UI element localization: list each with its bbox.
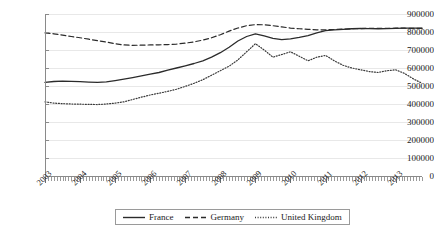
y-axis-tick-mark bbox=[45, 68, 49, 69]
y-axis-tick-label: 200000 bbox=[392, 136, 434, 145]
legend-label-united-kingdom: United Kingdom bbox=[281, 212, 342, 222]
y-axis-tick-label: 800000 bbox=[392, 28, 434, 37]
x-axis-tick-mark bbox=[162, 177, 163, 181]
legend-label-germany: Germany bbox=[211, 212, 245, 222]
x-axis-tick-mark bbox=[337, 177, 338, 181]
x-axis-tick-mark bbox=[235, 177, 236, 181]
x-axis-tick-mark bbox=[200, 177, 201, 181]
x-axis-tick-mark bbox=[232, 177, 233, 181]
x-axis-tick-mark bbox=[296, 177, 297, 181]
x-axis-tick-mark bbox=[197, 177, 198, 181]
x-axis-tick-mark bbox=[54, 177, 55, 181]
x-axis-tick-mark bbox=[92, 177, 93, 181]
x-axis-tick-mark bbox=[261, 177, 262, 181]
plot-area bbox=[45, 14, 422, 176]
x-axis-tick-mark bbox=[308, 177, 309, 181]
x-axis-tick-mark bbox=[302, 177, 303, 181]
x-axis-tick-mark bbox=[194, 177, 195, 181]
y-axis-tick-label: 600000 bbox=[392, 64, 434, 73]
x-axis-tick-mark bbox=[136, 177, 137, 181]
legend-item-france[interactable]: France bbox=[123, 212, 174, 222]
series-line-france bbox=[45, 28, 422, 82]
x-axis-tick-mark bbox=[267, 177, 268, 181]
y-axis-tick-label: 100000 bbox=[392, 154, 434, 163]
x-axis-tick-mark bbox=[413, 177, 414, 181]
x-axis-tick-mark bbox=[375, 177, 376, 181]
x-axis-tick-mark bbox=[241, 177, 242, 181]
x-axis-tick-mark bbox=[378, 177, 379, 181]
x-axis-tick-mark bbox=[419, 177, 420, 181]
x-axis-tick-mark bbox=[226, 177, 227, 181]
x-axis-tick-mark bbox=[270, 177, 271, 181]
y-axis-tick-label: 900000 bbox=[392, 10, 434, 19]
x-axis-tick-mark bbox=[311, 177, 312, 181]
y-axis-tick-label: 400000 bbox=[392, 100, 434, 109]
x-axis-tick-mark bbox=[407, 177, 408, 181]
x-axis-tick-mark bbox=[369, 177, 370, 181]
y-axis-tick-mark bbox=[45, 14, 49, 15]
x-axis-tick-mark bbox=[101, 177, 102, 181]
legend-swatch-dashed-icon bbox=[185, 214, 207, 221]
x-axis-tick-mark bbox=[229, 177, 230, 181]
x-axis-tick-mark bbox=[98, 177, 99, 181]
x-axis-tick-mark bbox=[343, 177, 344, 181]
x-axis-tick-mark bbox=[127, 177, 128, 181]
x-axis-tick-mark bbox=[60, 177, 61, 181]
x-axis-tick-mark bbox=[305, 177, 306, 181]
x-axis-tick-mark bbox=[156, 177, 157, 181]
x-axis-tick-mark bbox=[168, 177, 169, 181]
series-line-united-kingdom bbox=[45, 44, 422, 105]
x-axis-tick-mark bbox=[264, 177, 265, 181]
x-axis-tick-mark bbox=[124, 177, 125, 181]
y-axis-tick-mark bbox=[45, 86, 49, 87]
x-axis-tick-mark bbox=[206, 177, 207, 181]
y-axis-tick-mark bbox=[45, 158, 49, 159]
x-axis-tick-mark bbox=[340, 177, 341, 181]
x-axis-tick-mark bbox=[404, 177, 405, 181]
x-axis-tick-mark bbox=[57, 177, 58, 181]
x-axis-tick-mark bbox=[238, 177, 239, 181]
x-axis-tick-mark bbox=[372, 177, 373, 181]
x-axis-tick-mark bbox=[422, 177, 423, 181]
x-axis-tick-mark bbox=[89, 177, 90, 181]
legend-swatch-solid-icon bbox=[123, 214, 145, 221]
x-axis-tick-mark bbox=[165, 177, 166, 181]
x-axis-tick-mark bbox=[346, 177, 347, 181]
x-axis-tick-mark bbox=[171, 177, 172, 181]
y-axis-tick-mark bbox=[45, 50, 49, 51]
x-axis-tick-mark bbox=[63, 177, 64, 181]
series-line-germany bbox=[45, 25, 422, 46]
y-axis-tick-label: 500000 bbox=[392, 82, 434, 91]
y-axis-tick-mark bbox=[45, 122, 49, 123]
y-axis-tick-mark bbox=[45, 32, 49, 33]
x-axis-tick-mark bbox=[95, 177, 96, 181]
y-axis-tick-mark bbox=[45, 140, 49, 141]
legend-swatch-dotted-icon bbox=[255, 214, 277, 221]
line-chart: 0100000200000300000400000500000600000700… bbox=[0, 0, 434, 240]
x-axis-tick-mark bbox=[130, 177, 131, 181]
x-axis-tick-mark bbox=[273, 177, 274, 181]
x-axis-tick-mark bbox=[159, 177, 160, 181]
y-axis-line bbox=[45, 14, 46, 177]
x-axis-tick-mark bbox=[203, 177, 204, 181]
y-axis-tick-label: 700000 bbox=[392, 46, 434, 55]
series-lines bbox=[45, 14, 422, 176]
x-axis-tick-mark bbox=[276, 177, 277, 181]
legend-item-united-kingdom[interactable]: United Kingdom bbox=[255, 212, 342, 222]
y-axis-tick-mark bbox=[45, 104, 49, 105]
x-axis-tick-mark bbox=[299, 177, 300, 181]
x-axis-tick-mark bbox=[381, 177, 382, 181]
x-axis-tick-mark bbox=[410, 177, 411, 181]
x-axis-tick-mark bbox=[133, 177, 134, 181]
x-axis-tick-mark bbox=[334, 177, 335, 181]
legend-item-germany[interactable]: Germany bbox=[185, 212, 245, 222]
chart-legend: France Germany United Kingdom bbox=[115, 209, 350, 225]
x-axis-tick-mark bbox=[416, 177, 417, 181]
x-axis-tick-mark bbox=[191, 177, 192, 181]
legend-label-france: France bbox=[149, 212, 174, 222]
x-axis-tick-mark bbox=[65, 177, 66, 181]
y-axis-tick-label: 300000 bbox=[392, 118, 434, 127]
